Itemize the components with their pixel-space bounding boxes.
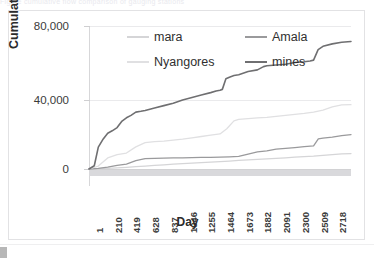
chart-screenshot: Figure cumulative flow comparison of gau… [0,0,374,262]
legend-item-mara[interactable]: mara [127,30,182,44]
y-tick-label-40000: 40,000 [9,94,69,106]
series-line-nyangores [89,105,351,169]
chart-legend: mara Amala Nyangores mines [127,30,342,76]
clipped-caption-text: Figure cumulative flow comparison of gau… [0,0,374,5]
legend-swatch-nyangores [127,61,149,63]
legend-item-mines[interactable]: mines [245,55,305,69]
chart-figure: Cumulative flow,m3/s 80,000 40,000 0 [8,10,365,240]
legend-swatch-mines [245,61,267,63]
legend-label-mines: mines [272,55,305,69]
legend-label-nyangores: Nyangores [154,55,214,69]
series-line-mara [89,154,351,169]
legend-swatch-mara [127,36,149,38]
legend-swatch-amala [245,36,267,38]
legend-item-amala[interactable]: Amala [245,30,307,44]
legend-label-amala: Amala [272,30,307,44]
x-axis-title: Day [9,215,366,229]
y-tick-label-0: 0 [9,163,69,175]
y-tick-label-80000: 80,000 [9,20,69,32]
plot-area: mara Amala Nyangores mines [89,26,351,186]
legend-item-nyangores[interactable]: Nyangores [127,55,214,69]
x-axis-tick-labels: 1210419628837104612551464167318822091230… [89,189,351,237]
window-edge-line [0,244,374,245]
scrollbar-artifact[interactable] [0,247,7,258]
clipped-caption-strip: Figure cumulative flow comparison of gau… [0,0,374,8]
legend-label-mara: mara [154,30,182,44]
